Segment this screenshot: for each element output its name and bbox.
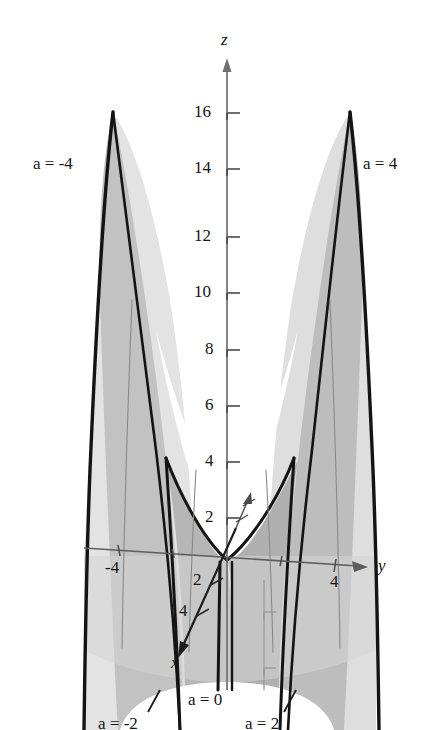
z-tick-4: 4 (205, 451, 214, 471)
z-tick-2: 2 (205, 507, 214, 527)
y-axis-label: y (378, 556, 386, 576)
annotation-a-0: a = 0 (188, 690, 222, 710)
z-tick-10: 10 (194, 282, 211, 302)
y-tick-minus-4: -4 (105, 558, 119, 578)
plot-canvas (0, 0, 422, 730)
z-tick-6: 6 (205, 395, 214, 415)
z-tick-8: 8 (205, 339, 214, 359)
surface-traces-figure: z y x 16 14 12 10 8 6 4 2 -4 4 2 4 a = -… (0, 0, 422, 730)
x-tick-4: 4 (179, 601, 188, 621)
x-axis-label: x (171, 653, 179, 673)
annotation-a-4: a = 4 (363, 154, 397, 174)
x-tick-2: 2 (193, 570, 202, 590)
annotation-a-2: a = 2 (245, 714, 279, 730)
y-tick-4: 4 (330, 572, 339, 592)
z-axis-label: z (221, 30, 228, 50)
z-tick-14: 14 (194, 158, 211, 178)
annotation-a-minus-2: a = -2 (98, 714, 138, 730)
z-tick-12: 12 (194, 226, 211, 246)
annotation-a-minus-4: a = -4 (33, 154, 73, 174)
z-tick-16: 16 (194, 102, 211, 122)
